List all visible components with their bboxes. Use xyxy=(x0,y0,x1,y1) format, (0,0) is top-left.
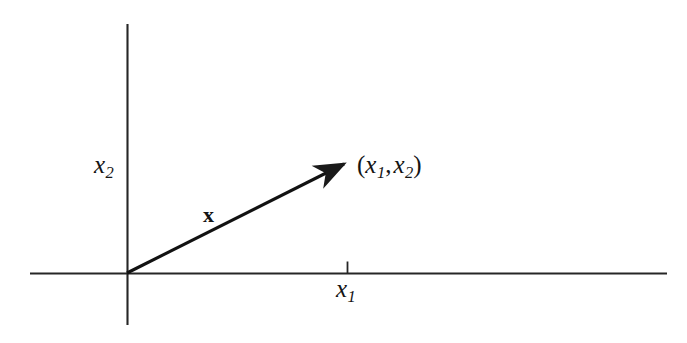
coord-second-subscript: 2 xyxy=(405,163,414,182)
coord-first-base: x xyxy=(365,151,376,178)
x-axis-label-base: x xyxy=(336,275,347,302)
coord-second-base: x xyxy=(393,151,404,178)
y-axis-label-base: x xyxy=(94,151,105,178)
close-paren: ) xyxy=(413,151,421,178)
vector-diagram-figure: x2 x1 (x1,x2) x xyxy=(0,0,687,343)
y-axis-label-subscript: 2 xyxy=(105,163,114,182)
vector-name-label: x xyxy=(203,204,214,226)
coord-first-subscript: 1 xyxy=(376,163,385,182)
y-axis-label: x2 xyxy=(94,152,114,182)
coordinate-pair-label: (x1,x2) xyxy=(357,152,422,182)
x-axis-label: x1 xyxy=(336,276,356,306)
x-axis-label-subscript: 1 xyxy=(347,287,356,306)
vector-x-arrow xyxy=(127,164,344,273)
